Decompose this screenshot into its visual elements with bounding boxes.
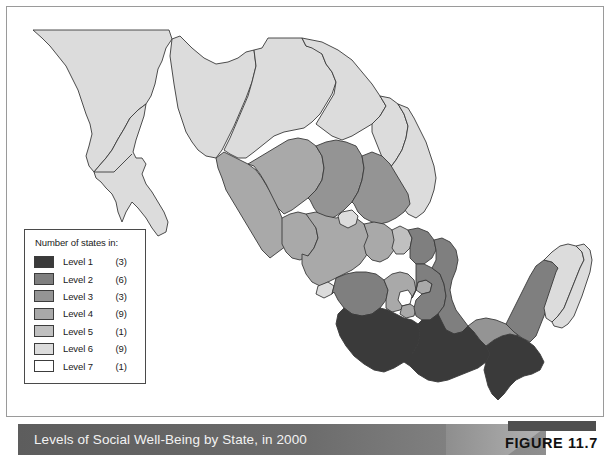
legend-row: Level 4 (9)	[34, 305, 137, 322]
region-hidalgo	[408, 228, 436, 264]
region-morelos	[400, 304, 416, 318]
figure-number-label: FIGURE 11.7	[505, 433, 605, 453]
region-baja-california	[33, 30, 172, 172]
legend-count-level-2: (6)	[105, 274, 127, 285]
legend-row: Level 1 (3)	[34, 253, 137, 270]
legend-row: Level 2 (6)	[34, 270, 137, 287]
figure-number-tab	[508, 421, 596, 431]
region-chiapas	[484, 334, 544, 400]
legend-label-level-5: Level 5	[63, 326, 105, 337]
legend-swatch-level-5	[34, 325, 54, 337]
legend-count-level-6: (9)	[105, 343, 127, 354]
legend-row: Level 3 (3)	[34, 288, 137, 305]
legend-count-level-4: (9)	[105, 308, 127, 319]
legend-swatch-level-3	[34, 290, 54, 302]
legend-label-level-7: Level 7	[63, 361, 105, 372]
legend-label-level-3: Level 3	[63, 291, 105, 302]
legend-swatch-level-7	[34, 360, 54, 372]
legend-swatch-level-1	[34, 256, 54, 268]
legend-swatch-level-6	[34, 343, 54, 355]
legend-count-level-5: (1)	[105, 326, 127, 337]
legend-row: Level 6 (9)	[34, 340, 137, 357]
legend-swatch-level-2	[34, 273, 54, 285]
legend-label-level-4: Level 4	[63, 308, 105, 319]
figure-caption: Levels of Social Well-Being by State, in…	[34, 424, 307, 455]
region-guanajuato	[364, 222, 396, 262]
figure-container: Number of states in: Level 1 (3) Level 2…	[0, 0, 612, 466]
legend-label-level-6: Level 6	[63, 343, 105, 354]
legend-count-level-7: (1)	[105, 361, 127, 372]
map-legend: Number of states in: Level 1 (3) Level 2…	[24, 229, 146, 384]
legend-swatch-level-4	[34, 308, 54, 320]
legend-label-level-1: Level 1	[63, 256, 105, 267]
legend-label-level-2: Level 2	[63, 274, 105, 285]
legend-title: Number of states in:	[35, 237, 137, 248]
legend-row: Level 5 (1)	[34, 323, 137, 340]
legend-count-level-3: (3)	[105, 291, 127, 302]
legend-row: Level 7 (1)	[34, 357, 137, 374]
legend-count-level-1: (3)	[105, 256, 127, 267]
